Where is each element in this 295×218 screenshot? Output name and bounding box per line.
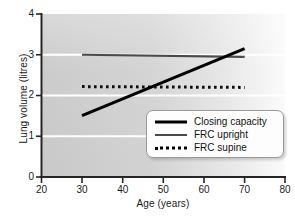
- x-tick-label-40: 40: [111, 184, 135, 195]
- legend-label-frc-upright: FRC upright: [194, 129, 248, 140]
- y-axis-title: Lung volume (litres): [18, 29, 29, 169]
- legend-swatch-dotted-icon: [154, 142, 188, 153]
- x-tick-label-60: 60: [192, 184, 216, 195]
- lung-volume-age-chart: 0 1 2 3 4 20 30 40 50 60 70 80 Lung volu…: [0, 0, 295, 218]
- y-tick-label-0: 0: [16, 171, 34, 182]
- legend-item-closing-capacity: Closing capacity: [154, 115, 277, 128]
- legend-swatch-solid-thick-icon: [154, 116, 188, 127]
- legend-label-closing-capacity: Closing capacity: [194, 116, 267, 127]
- x-axis-title: Age (years): [41, 198, 285, 209]
- x-tick-label-20: 20: [30, 184, 54, 195]
- legend-swatch-solid-thin-icon: [154, 129, 188, 140]
- x-tick-label-70: 70: [233, 184, 257, 195]
- legend-item-frc-upright: FRC upright: [154, 128, 277, 141]
- x-tick-label-30: 30: [70, 184, 94, 195]
- x-tick-label-80: 80: [273, 184, 295, 195]
- y-tick-label-4: 4: [16, 8, 34, 19]
- legend-label-frc-supine: FRC supine: [194, 142, 247, 153]
- chart-legend: Closing capacity FRC upright FRC supine: [146, 110, 284, 158]
- y-axis-ticks: [36, 14, 41, 177]
- legend-item-frc-supine: FRC supine: [154, 141, 277, 154]
- x-tick-label-50: 50: [151, 184, 175, 195]
